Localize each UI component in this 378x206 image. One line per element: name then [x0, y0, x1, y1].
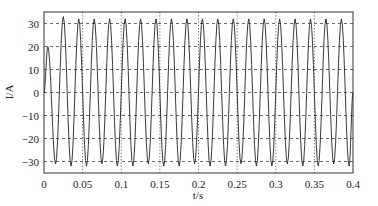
y-tick-label: 10	[28, 64, 40, 76]
x-tick-label: 0.25	[228, 178, 248, 190]
y-tick-label: −10	[22, 110, 40, 122]
y-tick-label: 20	[28, 41, 40, 53]
current-waveform-chart: 3020100−10−20−30 00.050.10.150.20.250.30…	[0, 0, 378, 206]
x-tick-label: 0	[41, 178, 47, 190]
x-tick-label: 0.05	[73, 178, 93, 190]
y-tick-label: 0	[34, 87, 40, 99]
x-tick-label: 0.4	[346, 178, 360, 190]
y-tick-label: −20	[22, 133, 40, 145]
x-tick-label: 0.3	[269, 178, 283, 190]
x-axis-label: t/s	[193, 189, 203, 201]
y-tick-label: −30	[22, 156, 40, 168]
x-tick-label: 0.35	[305, 178, 325, 190]
x-tick-label: 0.15	[150, 178, 170, 190]
y-tick-label: 30	[28, 18, 40, 30]
x-tick-label: 0.1	[114, 178, 128, 190]
y-axis-ticks: 3020100−10−20−30	[22, 18, 40, 168]
y-axis-label: I/A	[3, 85, 15, 100]
